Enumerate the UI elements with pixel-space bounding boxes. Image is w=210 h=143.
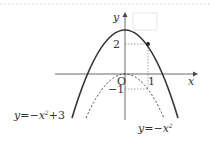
x-axis-label: x [188, 75, 195, 88]
y-axis-arrow-icon [123, 12, 128, 17]
point-1-2 [146, 42, 150, 46]
parabola-diagram: y x O 1 2 −1 y=−x2+3 y=−x2 [0, 0, 210, 143]
x-tick-1: 1 [148, 75, 155, 88]
dotted-curve-label: y=−x2 [137, 122, 173, 135]
faint-box [133, 13, 157, 30]
y-axis-label: y [112, 11, 120, 24]
solid-curve-label: y=−x2+3 [13, 109, 65, 122]
y-tick-neg1: −1 [108, 83, 124, 96]
y-tick-2: 2 [113, 38, 120, 51]
